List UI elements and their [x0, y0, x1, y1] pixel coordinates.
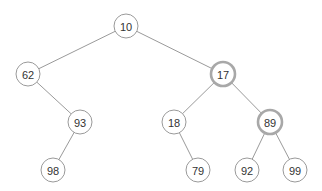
tree-node-92: 92	[235, 158, 259, 182]
node-label: 17	[217, 69, 229, 81]
tree-node-18: 18	[162, 110, 186, 134]
edges-layer	[28, 26, 295, 170]
node-label: 62	[22, 69, 34, 81]
node-label: 99	[289, 165, 301, 177]
tree-node-10: 10	[114, 14, 138, 38]
node-label: 79	[192, 165, 204, 177]
node-label: 93	[74, 117, 86, 129]
tree-node-98: 98	[41, 158, 65, 182]
node-label: 98	[47, 165, 59, 177]
tree-node-99: 99	[283, 158, 307, 182]
edge-10-62	[28, 26, 126, 74]
node-label: 89	[264, 117, 276, 129]
node-label: 18	[168, 117, 180, 129]
node-label: 10	[120, 21, 132, 33]
tree-node-79: 79	[186, 158, 210, 182]
tree-node-17: 17	[211, 62, 235, 86]
edge-10-17	[126, 26, 223, 74]
tree-diagram: 10621793188998799299	[0, 0, 322, 191]
tree-node-89: 89	[258, 110, 282, 134]
tree-node-93: 93	[68, 110, 92, 134]
tree-node-62: 62	[16, 62, 40, 86]
nodes-layer: 10621793188998799299	[16, 14, 307, 182]
node-label: 92	[241, 165, 253, 177]
